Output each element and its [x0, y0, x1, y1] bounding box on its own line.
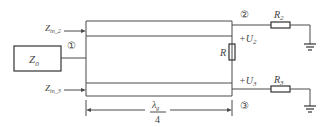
port-3-label: ③ — [240, 100, 249, 111]
svg-text:λg: λg — [151, 99, 159, 111]
isolation-resistor-label: R — [219, 47, 226, 58]
ground-2-icon — [304, 44, 316, 50]
voltage-2-label: +U2 — [239, 33, 257, 46]
voltage-3-label: +U3 — [239, 75, 257, 88]
zin3-arrowhead-icon — [81, 88, 86, 92]
svg-text:4: 4 — [155, 114, 160, 125]
zin2-label: Zin_2 — [45, 23, 61, 34]
zin2-arrowhead-icon — [81, 29, 86, 33]
dimension-arrow-right-icon — [227, 108, 232, 112]
load-resistor-2-label: R2 — [273, 9, 284, 22]
quarter-wavelength-label: λg 4 — [150, 99, 166, 125]
dimension-arrow-left-icon — [86, 108, 91, 112]
source-impedance-label: Z0 — [29, 53, 39, 68]
wilkinson-divider-diagram: Z0 ① Zin_2 Zin_3 R ② R2 +U2 ③ R3 +U3 — [0, 0, 327, 127]
load-resistor-3-label: R3 — [273, 74, 284, 87]
zin3-label: Zin_3 — [45, 83, 61, 94]
port-1-label: ① — [67, 40, 76, 51]
port-2-label: ② — [240, 9, 249, 20]
load-resistor-2 — [271, 22, 290, 28]
ground-3-icon — [304, 106, 316, 112]
